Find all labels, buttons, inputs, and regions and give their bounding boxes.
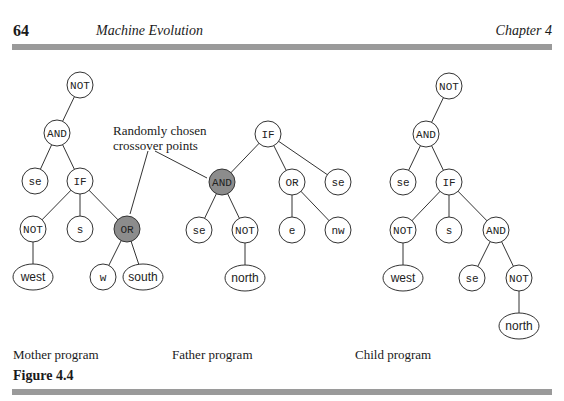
- father-node-nw: nw: [325, 217, 351, 243]
- child-caption: Child program: [355, 347, 431, 363]
- child-node-se: se: [459, 265, 485, 291]
- svg-text:se: se: [28, 176, 41, 188]
- svg-text:AND: AND: [47, 128, 67, 140]
- svg-text:AND: AND: [416, 129, 436, 141]
- svg-text:north: north: [231, 271, 258, 285]
- svg-text:nw: nw: [331, 225, 345, 237]
- svg-text:e: e: [289, 225, 296, 237]
- svg-text:se: se: [465, 273, 478, 285]
- child-node-if: IF: [436, 169, 462, 195]
- mother-node-and: AND: [44, 120, 70, 146]
- crossover-diagram: NOTANDseIFNOTsORwestwsouthIFANDORseseNOT…: [0, 0, 564, 401]
- child-node-west: west: [383, 265, 423, 291]
- mother-caption: Mother program: [13, 347, 99, 363]
- tree-nodes: NOTANDseIFNOTsORwestwsouthIFANDORseseNOT…: [13, 72, 539, 339]
- svg-text:NOT: NOT: [439, 81, 459, 93]
- svg-text:AND: AND: [212, 177, 232, 189]
- annotation-line-2: crossover points: [113, 138, 207, 153]
- svg-text:se: se: [192, 225, 205, 237]
- mother-node-w: w: [90, 264, 116, 290]
- father-caption: Father program: [172, 347, 253, 363]
- father-node-not: NOT: [232, 217, 258, 243]
- father-node-se: se: [186, 217, 212, 243]
- child-node-not: NOT: [390, 217, 416, 243]
- svg-text:s: s: [446, 225, 453, 237]
- crossover-annotation: Randomly chosen crossover points: [113, 123, 207, 153]
- svg-text:north: north: [505, 319, 532, 333]
- svg-text:OR: OR: [285, 177, 299, 189]
- svg-text:s: s: [77, 224, 84, 236]
- father-node-north: north: [225, 265, 265, 291]
- footer-rule: [12, 389, 552, 395]
- svg-text:se: se: [331, 177, 344, 189]
- mother-node-or: OR: [114, 216, 140, 242]
- svg-text:NOT: NOT: [235, 225, 255, 237]
- svg-text:AND: AND: [486, 225, 506, 237]
- svg-text:south: south: [128, 270, 157, 284]
- mother-node-s: s: [67, 216, 93, 242]
- father-node-and: AND: [209, 169, 235, 195]
- mother-node-south: south: [123, 264, 163, 290]
- figure-label: Figure 4.4: [13, 368, 73, 384]
- child-node-not: NOT: [436, 73, 462, 99]
- svg-text:IF: IF: [261, 129, 274, 141]
- father-node-se: se: [325, 169, 351, 195]
- svg-text:w: w: [100, 272, 107, 284]
- svg-text:OR: OR: [120, 224, 134, 236]
- child-node-and: AND: [483, 217, 509, 243]
- child-node-north: north: [499, 313, 539, 339]
- svg-text:NOT: NOT: [509, 273, 529, 285]
- mother-node-not: NOT: [20, 216, 46, 242]
- child-node-s: s: [436, 217, 462, 243]
- mother-node-if: IF: [67, 168, 93, 194]
- svg-text:NOT: NOT: [23, 224, 43, 236]
- child-node-not: NOT: [506, 265, 532, 291]
- father-node-or: OR: [279, 169, 305, 195]
- mother-node-not: NOT: [67, 72, 93, 98]
- svg-text:NOT: NOT: [70, 80, 90, 92]
- mother-node-se: se: [22, 168, 48, 194]
- father-node-e: e: [279, 217, 305, 243]
- svg-text:west: west: [20, 270, 46, 284]
- child-node-and: AND: [413, 121, 439, 147]
- mother-node-west: west: [13, 264, 53, 290]
- svg-text:NOT: NOT: [393, 225, 413, 237]
- annotation-line-1: Randomly chosen: [113, 123, 207, 138]
- svg-text:IF: IF: [442, 177, 455, 189]
- father-node-if: IF: [255, 121, 281, 147]
- svg-text:IF: IF: [73, 176, 86, 188]
- svg-text:se: se: [396, 177, 409, 189]
- child-node-se: se: [390, 169, 416, 195]
- svg-text:west: west: [390, 271, 416, 285]
